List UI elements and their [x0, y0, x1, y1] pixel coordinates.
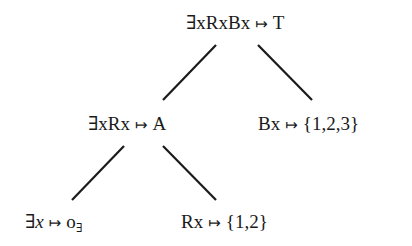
node-left-right-value: {1,2} [226, 211, 268, 232]
node-right: Bx↦{1,2,3} [258, 113, 359, 136]
node-root: ∃xRxBx↦T [186, 12, 284, 35]
node-left-right-formula: Rx [181, 211, 203, 232]
edge-left-leftright [163, 146, 216, 200]
node-right-formula: Bx [258, 113, 280, 134]
node-root-formula: ∃xRxBx [186, 12, 250, 33]
variable-x: x [35, 211, 43, 232]
edge-root-right [258, 45, 312, 100]
value-subscript: ∃ [76, 221, 83, 235]
value-main: o [66, 211, 76, 232]
tree-diagram: ∃xRxBx↦T ∃xRx↦A Bx↦{1,2,3} ∃x↦o∃ Rx↦{1,2… [0, 0, 412, 246]
exists-symbol: ∃ [25, 211, 35, 232]
node-left-value: A [153, 113, 167, 134]
maps-to-icon: ↦ [255, 15, 268, 33]
node-left-left: ∃x↦o∃ [25, 211, 82, 239]
maps-to-icon: ↦ [285, 116, 298, 134]
edge-root-left [163, 45, 216, 100]
maps-to-icon: ↦ [49, 214, 62, 232]
node-left-right: Rx↦{1,2} [181, 211, 268, 234]
node-left-left-value: o∃ [66, 211, 82, 232]
node-left: ∃xRx↦A [88, 113, 166, 136]
node-right-value: {1,2,3} [303, 113, 359, 134]
node-root-value: T [273, 12, 285, 33]
node-left-formula: ∃xRx [88, 113, 130, 134]
edge-left-leftleft [72, 146, 124, 200]
node-left-left-formula: ∃x [25, 211, 44, 232]
maps-to-icon: ↦ [208, 214, 221, 232]
maps-to-icon: ↦ [135, 116, 148, 134]
